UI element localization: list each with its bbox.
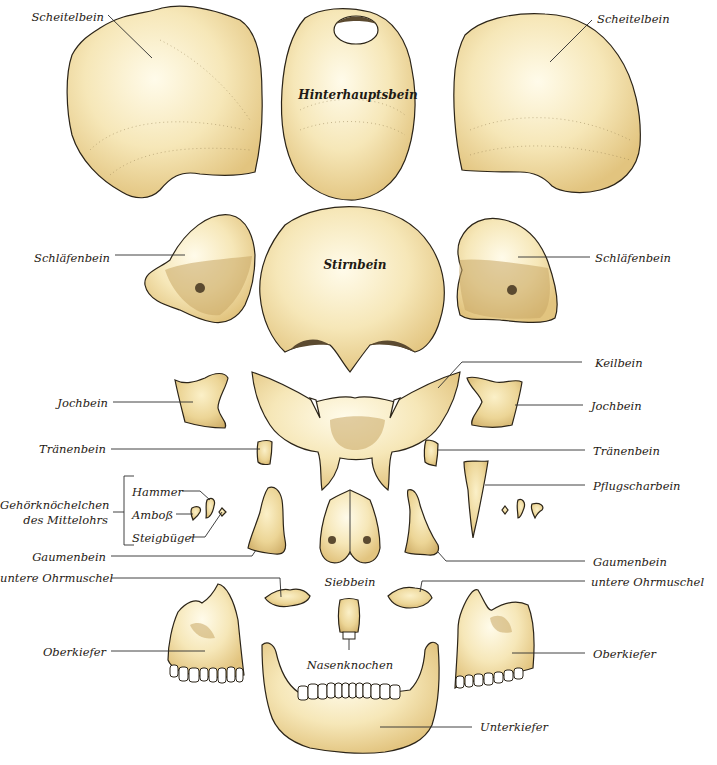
inferior-concha-left — [265, 589, 310, 606]
label-amboss: Amboß — [132, 508, 173, 522]
label-pflugscharbein: Pflugscharbein — [593, 479, 681, 493]
label-steigbuegel: Steigbügel — [132, 531, 195, 545]
label-untere-ohrmuschel-right: untere Ohrmuschel — [591, 575, 704, 589]
label-jochbein-right: Jochbein — [591, 399, 642, 413]
sphenoid-bone — [252, 372, 460, 490]
label-gaumenbein-right: Gaumenbein — [593, 555, 667, 569]
nasal-bones — [339, 599, 360, 651]
leader-gaumenbein-left — [111, 550, 256, 556]
maxilla-right — [455, 590, 534, 688]
zygomatic-bone-left — [175, 374, 228, 429]
ossicles-left — [191, 498, 226, 520]
skull-bones-diagram: Scheitelbein Hinterhauptsbein Scheitelbe… — [0, 0, 717, 765]
label-oberkiefer-left: Oberkiefer — [10, 645, 106, 659]
palatine-bone-left — [248, 487, 286, 554]
temporal-bone-left — [145, 215, 255, 323]
label-gaumenbein-left: Gaumenbein — [10, 550, 106, 564]
inferior-concha-right — [388, 587, 432, 608]
lacrimal-bone-left — [257, 441, 272, 465]
label-gehoerknoechelchen-line2: des Mittelohrs — [0, 513, 108, 527]
label-hammer: Hammer — [132, 485, 183, 499]
label-traenenbein-right: Tränenbein — [593, 444, 660, 458]
label-unterkiefer: Unterkiefer — [480, 720, 548, 734]
label-scheitelbein-right: Scheitelbein — [597, 12, 670, 26]
label-traenenbein-left: Tränenbein — [10, 442, 106, 456]
label-jochbein-left: Jochbein — [10, 396, 108, 410]
label-stirnbein: Stirnbein — [300, 258, 410, 272]
leader-untere-ohrmuschel-right — [420, 581, 585, 592]
parietal-bone-right — [454, 14, 640, 193]
label-gehoerknoechelchen-line1: Gehörknöchelchen — [0, 498, 108, 512]
leader-untere-ohrmuschel-left — [111, 578, 281, 597]
ethmoid-bone — [320, 490, 380, 563]
parietal-bone-left — [67, 6, 262, 197]
zygomatic-bone-right — [467, 377, 522, 427]
label-keilbein: Keilbein — [595, 356, 643, 370]
leader-hammer — [182, 491, 210, 500]
label-schlaefenbein-right: Schläfenbein — [595, 251, 671, 265]
label-oberkiefer-right: Oberkiefer — [593, 647, 656, 661]
occipital-bone — [282, 9, 416, 200]
label-siebbein: Siebbein — [310, 575, 390, 589]
ossicles-right — [502, 499, 543, 518]
leader-gaumenbein-right — [438, 552, 585, 561]
temporal-bone-right — [457, 218, 557, 322]
frontal-bone — [260, 207, 445, 372]
label-hinterhauptsbein: Hinterhauptsbein — [290, 88, 426, 102]
palatine-bone-right — [405, 490, 439, 555]
label-schlaefenbein-left: Schläfenbein — [10, 251, 110, 265]
vomer-bone — [464, 461, 488, 538]
label-scheitelbein-left: Scheitelbein — [10, 10, 104, 24]
maxilla-left — [168, 584, 244, 683]
label-nasenknochen: Nasenknochen — [295, 658, 405, 672]
lacrimal-bone-right — [424, 440, 438, 466]
label-untere-ohrmuschel-left: untere Ohrmuschel — [0, 571, 107, 585]
